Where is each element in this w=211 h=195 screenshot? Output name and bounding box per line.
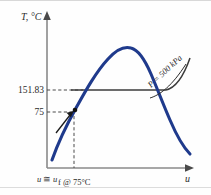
state-point-marker (73, 108, 78, 113)
x-axis-title: u (185, 173, 190, 184)
x-axis-state-annotation: u ≅ u f @ 75°C (37, 174, 91, 187)
y-tick-label-151: 151.83 (18, 85, 44, 95)
state-label-uf: u (53, 174, 57, 184)
x-axis-arrow-icon (185, 164, 194, 172)
axes-group (43, 11, 194, 172)
t-u-diagram-figure: T, °C u 151.83 75 (0, 0, 211, 195)
state-label-approx-icon: ≅ (43, 174, 51, 184)
state-label-u: u (37, 174, 41, 184)
y-tick-label-75: 75 (35, 107, 45, 117)
plot-area: T, °C u 151.83 75 (0, 0, 211, 195)
y-axis-arrow-icon (43, 11, 51, 20)
y-axis-title: T, °C (21, 11, 42, 22)
state-label-subscript: f @ 75°C (58, 177, 91, 187)
